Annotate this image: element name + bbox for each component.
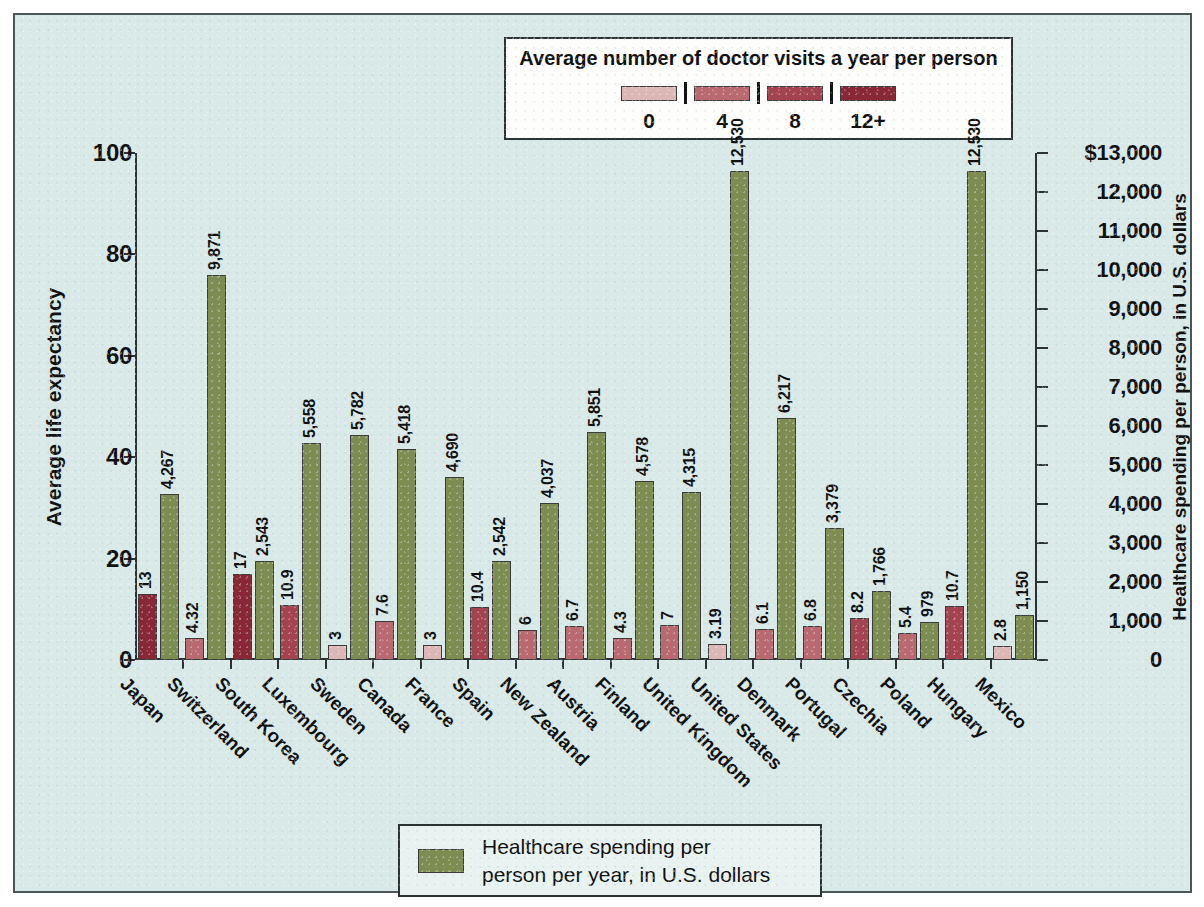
bar-value-label-visits: 10.4 (469, 572, 487, 602)
bar-value-label-visits: 5.4 (897, 606, 915, 628)
legend-swatch-8 (767, 86, 823, 101)
bar-healthcare-spending (540, 503, 559, 660)
bar-group: 3.1912,530 (708, 153, 755, 660)
legend-separator (830, 82, 833, 104)
bar-group: 64,037 (518, 153, 565, 660)
bar-healthcare-spending (397, 449, 416, 660)
left-axis-tick-label: 80 (106, 240, 132, 268)
x-axis-tick (325, 658, 327, 669)
bar-healthcare-spending (682, 492, 701, 660)
bar-healthcare-spending (207, 275, 226, 660)
bar-value-label-visits: 7.6 (374, 595, 392, 617)
bar-value-label-spending: 5,851 (586, 388, 604, 427)
bar-value-label-spending: 2,543 (254, 517, 272, 556)
spending-legend-swatch (418, 849, 464, 873)
left-axis-title: Average life expectancy (42, 287, 66, 526)
bar-healthcare-spending (967, 171, 986, 660)
bar-value-label-spending: 6,217 (776, 374, 794, 413)
bar-group: 134,267 (138, 153, 185, 660)
bar-value-label-visits: 3 (327, 631, 345, 640)
bar-doctor-visits (803, 626, 822, 660)
bar-doctor-visits (375, 621, 394, 660)
bar-doctor-visits (565, 626, 584, 660)
left-axis-tick-label: 0 (119, 646, 132, 674)
bar-healthcare-spending (920, 622, 939, 660)
right-axis-title-wrap: Healthcare spending per person, in U.S. … (1163, 153, 1197, 660)
bar-group: 74,315 (660, 153, 707, 660)
right-axis-tick-label: 4,000 (1050, 491, 1162, 517)
left-axis-tick-label: 100 (93, 139, 132, 167)
bar-doctor-visits (613, 638, 632, 660)
left-axis-tick-label: 40 (106, 443, 132, 471)
bar-group: 10.42,542 (470, 153, 517, 660)
right-axis-tick-label: 11,000 (1050, 218, 1162, 244)
bar-doctor-visits (423, 645, 442, 660)
bar-doctor-visits (280, 605, 299, 660)
bar-value-label-spending: 1,766 (871, 547, 889, 586)
legend-tick-label: 0 (621, 109, 677, 133)
bar-doctor-visits (945, 606, 964, 660)
right-axis-tick-label: 3,000 (1050, 530, 1162, 556)
right-axis-tick-label: 7,000 (1050, 374, 1162, 400)
bar-healthcare-spending (350, 435, 369, 660)
bar-value-label-spending: 979 (919, 591, 937, 617)
bar-group: 7.65,418 (375, 153, 422, 660)
bar-healthcare-spending (1015, 615, 1034, 660)
bar-group: 10.95,558 (280, 153, 327, 660)
bar-healthcare-spending (730, 171, 749, 660)
bar-doctor-visits (755, 629, 774, 660)
bar-value-label-visits: 6.7 (564, 599, 582, 621)
bar-value-label-spending: 12,530 (966, 119, 984, 167)
x-axis-tick (657, 658, 659, 669)
bar-healthcare-spending (777, 418, 796, 660)
bar-healthcare-spending (160, 494, 179, 660)
x-axis-tick (562, 658, 564, 669)
x-axis-tick (182, 658, 184, 669)
x-axis-tick (990, 658, 992, 669)
right-axis-tick-label: 12,000 (1050, 179, 1162, 205)
legend-separator (757, 82, 760, 104)
x-axis-tick (372, 658, 374, 669)
x-axis-tick (230, 658, 232, 669)
bar-doctor-visits (233, 574, 252, 660)
bar-value-label-visits: 10.7 (944, 570, 962, 600)
bar-value-label-visits: 4.3 (612, 612, 630, 634)
bar-value-label-visits: 6 (517, 616, 535, 625)
bar-doctor-visits (660, 625, 679, 660)
bar-value-label-spending: 4,267 (159, 450, 177, 489)
bar-doctor-visits (898, 633, 917, 660)
bar-value-label-visits: 6.8 (802, 599, 820, 621)
right-axis-tick-label: $13,000 (1050, 140, 1162, 166)
x-axis-tick (752, 658, 754, 669)
spending-legend-line2: person per year, in U.S. dollars (482, 861, 770, 889)
bar-value-label-spending: 3,379 (824, 484, 842, 523)
bar-group: 4.329,871 (185, 153, 232, 660)
legend-title: Average number of doctor visits a year p… (506, 47, 1011, 70)
legend-tick-label: 8 (767, 109, 823, 133)
left-axis-tick-label: 60 (106, 342, 132, 370)
right-axis-tick-label: 5,000 (1050, 452, 1162, 478)
right-axis-tick-label: 1,000 (1050, 608, 1162, 634)
bar-healthcare-spending (825, 528, 844, 660)
left-axis-tick-label: 20 (106, 545, 132, 573)
legend-tick-labels: 04812+ (506, 107, 1011, 135)
bar-value-label-visits: 2.8 (992, 619, 1010, 641)
right-axis-tick-label: 8,000 (1050, 335, 1162, 361)
bar-group: 6.83,379 (803, 153, 850, 660)
right-axis-tick-label: 10,000 (1050, 257, 1162, 283)
bar-group: 10.712,530 (945, 153, 992, 660)
left-axis-title-wrap: Average life expectancy (37, 153, 71, 660)
bar-value-label-spending: 4,037 (539, 459, 557, 498)
x-axis-tick (277, 658, 279, 669)
bar-group: 5.4979 (898, 153, 945, 660)
bar-healthcare-spending (635, 481, 654, 660)
x-axis-label-japan: Japan (115, 673, 169, 727)
x-axis-tick (847, 658, 849, 669)
spending-legend: Healthcare spending per person per year,… (398, 824, 822, 897)
bar-healthcare-spending (445, 477, 464, 660)
right-axis-tick-label: 9,000 (1050, 296, 1162, 322)
right-axis-title: Healthcare spending per person, in U.S. … (1169, 193, 1191, 621)
bar-healthcare-spending (872, 591, 891, 660)
bar-group: 6.16,217 (755, 153, 802, 660)
bar-value-label-spending: 5,558 (301, 399, 319, 438)
